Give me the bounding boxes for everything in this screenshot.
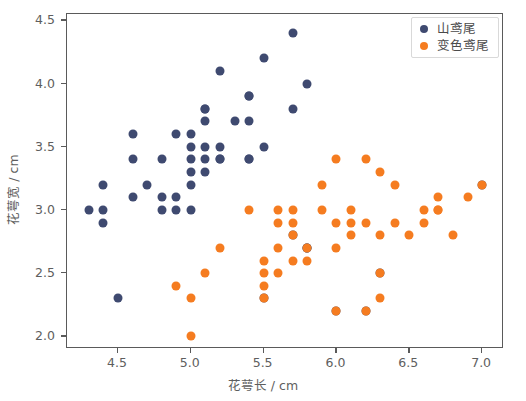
data-point <box>157 155 166 164</box>
data-point <box>259 256 268 265</box>
data-point <box>172 193 181 202</box>
x-axis-tick-label: 4.5 <box>107 355 127 370</box>
data-point <box>361 155 370 164</box>
data-point <box>172 130 181 139</box>
x-axis-tick <box>408 348 409 353</box>
x-axis-tick <box>263 348 264 353</box>
data-point <box>99 205 108 214</box>
y-axis-tick-label: 3.0 <box>35 201 55 216</box>
x-axis-tick-label: 5.0 <box>180 355 200 370</box>
data-point <box>157 193 166 202</box>
data-point <box>245 117 254 126</box>
data-point <box>347 205 356 214</box>
data-point <box>128 130 137 139</box>
data-point <box>274 205 283 214</box>
data-point <box>128 155 137 164</box>
data-point <box>128 193 137 202</box>
data-point <box>288 28 297 37</box>
data-point <box>274 218 283 227</box>
data-point <box>347 218 356 227</box>
data-point <box>201 269 210 278</box>
data-point <box>259 269 268 278</box>
data-point <box>186 130 195 139</box>
x-axis-tick <box>335 348 336 353</box>
data-point <box>245 92 254 101</box>
legend-marker-icon <box>420 25 428 33</box>
data-point <box>157 205 166 214</box>
data-point <box>186 168 195 177</box>
legend-marker-icon <box>420 42 428 50</box>
data-point <box>361 218 370 227</box>
data-point <box>99 218 108 227</box>
data-point <box>215 243 224 252</box>
data-point <box>405 231 414 240</box>
y-axis-tick <box>61 335 66 336</box>
data-point <box>288 231 297 240</box>
x-axis-label: 花萼长 / cm <box>0 375 526 394</box>
legend-entry[interactable]: 变色鸢尾 <box>420 40 489 53</box>
data-point <box>201 104 210 113</box>
y-axis-tick <box>61 272 66 273</box>
data-point <box>259 142 268 151</box>
data-point <box>332 155 341 164</box>
y-axis-tick <box>61 146 66 147</box>
data-point <box>376 168 385 177</box>
data-point <box>376 269 385 278</box>
data-point <box>288 218 297 227</box>
data-point <box>99 180 108 189</box>
data-point <box>434 205 443 214</box>
data-point <box>434 193 443 202</box>
data-point <box>376 231 385 240</box>
x-axis-tick <box>117 348 118 353</box>
data-point <box>332 307 341 316</box>
data-point <box>361 307 370 316</box>
data-point <box>201 142 210 151</box>
legend-entry[interactable]: 山鸢尾 <box>420 23 489 36</box>
data-point <box>317 205 326 214</box>
y-axis-tick-label: 3.5 <box>35 138 55 153</box>
data-point <box>288 104 297 113</box>
data-point <box>303 243 312 252</box>
data-point <box>215 155 224 164</box>
data-point <box>463 193 472 202</box>
data-point <box>419 218 428 227</box>
data-point <box>186 142 195 151</box>
y-axis-tick <box>61 209 66 210</box>
data-point <box>201 117 210 126</box>
data-point <box>376 294 385 303</box>
data-point <box>332 243 341 252</box>
data-point <box>274 243 283 252</box>
data-point <box>113 294 122 303</box>
data-point <box>390 180 399 189</box>
data-point <box>215 66 224 75</box>
data-point <box>186 332 195 341</box>
y-axis-tick <box>61 83 66 84</box>
data-point <box>186 205 195 214</box>
data-point <box>259 281 268 290</box>
x-axis-tick <box>481 348 482 353</box>
x-axis-tick-label: 7.0 <box>471 355 491 370</box>
data-point <box>172 205 181 214</box>
y-axis-tick-label: 4.5 <box>35 12 55 27</box>
y-axis-tick-label: 2.0 <box>35 328 55 343</box>
data-point <box>245 205 254 214</box>
data-point <box>390 218 399 227</box>
y-axis-tick-label: 2.5 <box>35 265 55 280</box>
data-point <box>245 155 254 164</box>
data-point <box>317 180 326 189</box>
scatter-chart-figure: 4.55.05.56.06.57.02.02.53.03.54.04.5 花萼长… <box>0 0 526 401</box>
data-point <box>419 205 428 214</box>
data-point <box>84 205 93 214</box>
data-point <box>274 269 283 278</box>
data-point <box>186 294 195 303</box>
data-point <box>288 205 297 214</box>
legend-label: 山鸢尾 <box>437 23 476 36</box>
y-axis-tick-label: 4.0 <box>35 75 55 90</box>
data-point <box>332 218 341 227</box>
data-point <box>186 155 195 164</box>
legend[interactable]: 山鸢尾变色鸢尾 <box>411 17 499 58</box>
data-point <box>449 231 458 240</box>
data-point <box>478 180 487 189</box>
data-point <box>347 231 356 240</box>
data-point <box>230 117 239 126</box>
